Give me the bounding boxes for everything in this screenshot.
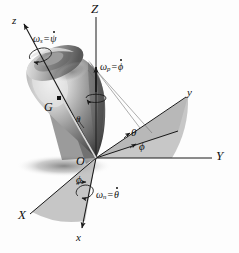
axis-label-Y: Y — [216, 149, 223, 162]
nutation-equals: = — [106, 189, 114, 200]
nutation-value: θ — [114, 189, 119, 200]
axis-label-y: y — [187, 87, 192, 98]
center-of-mass-point — [57, 96, 61, 100]
origin-label: O — [76, 155, 85, 167]
phi-upper-label: ϕ — [139, 141, 145, 152]
axis-label-z: z — [12, 15, 16, 26]
theta-upper-label: θ — [131, 127, 136, 138]
nutation-omega-symbol: ω — [96, 189, 103, 200]
spin-value: ψ — [50, 33, 56, 44]
center-of-mass-label: G — [44, 101, 53, 113]
axis-label-x: x — [76, 232, 81, 243]
phi-lower-label: ϕ — [76, 174, 82, 185]
precession-equals: = — [110, 61, 118, 72]
precession-value: ϕ — [118, 61, 123, 72]
axis-label-Z: Z — [91, 2, 98, 15]
euler-angles-figure: Z Y X z y x O G θ θ ϕ ϕ ωs=ψ ωp=ϕ ωn=θ — [0, 0, 239, 253]
precession-rate-label: ωp=ϕ — [100, 62, 123, 73]
axis-label-X: X — [18, 208, 26, 221]
spin-omega-symbol: ω — [33, 33, 40, 44]
precession-omega-symbol: ω — [100, 61, 107, 72]
spin-equals: = — [43, 33, 51, 44]
theta-body-label: θ — [76, 115, 80, 124]
spin-rate-label: ωs=ψ — [33, 34, 57, 45]
nutation-rate-label: ωn=θ — [96, 190, 119, 201]
spin-dot-accent — [53, 31, 55, 33]
